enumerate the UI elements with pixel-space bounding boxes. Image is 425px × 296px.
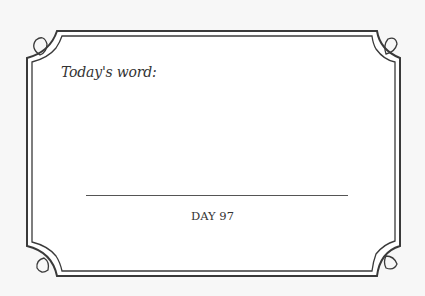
answer-line: [86, 195, 348, 196]
vocab-card: Today's word: DAY 97: [0, 0, 425, 296]
leaf-icon-bottom-left: [37, 258, 49, 272]
leaf-icon-bottom-right: [385, 256, 398, 269]
ornamental-frame: [0, 0, 425, 296]
prompt-label: Today's word:: [61, 64, 157, 80]
day-label: DAY 97: [0, 209, 425, 223]
